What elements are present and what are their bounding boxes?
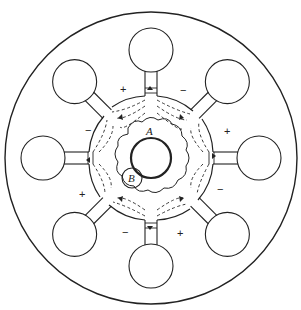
magnetron-diagram: + − + − + − + − A B: [0, 0, 301, 310]
sign-label: +: [79, 188, 85, 200]
sign-label: +: [120, 83, 126, 95]
cavity-left: [21, 136, 89, 180]
label-b: B: [128, 172, 135, 184]
field-arrows: [86, 86, 216, 230]
cavity-bottom-right: [179, 186, 258, 265]
sign-label: −: [122, 226, 128, 238]
cavity-bottom: [129, 220, 173, 288]
sign-label: +: [224, 125, 230, 137]
cavity-top: [129, 28, 173, 96]
sign-label: −: [180, 84, 186, 96]
cavity-right: [213, 136, 281, 180]
label-a: A: [145, 125, 153, 137]
anode-outer-boundary: [5, 12, 297, 304]
cathode: [131, 138, 171, 178]
sign-label: −: [217, 183, 223, 195]
cavity-top-right: [179, 51, 258, 130]
sign-label: +: [177, 227, 183, 239]
slot-field-lines: [88, 88, 214, 228]
sign-label: −: [85, 124, 91, 136]
cavity-top-left: [44, 51, 123, 130]
resonator-cavities: [21, 28, 281, 288]
anode-segments: [89, 96, 213, 220]
